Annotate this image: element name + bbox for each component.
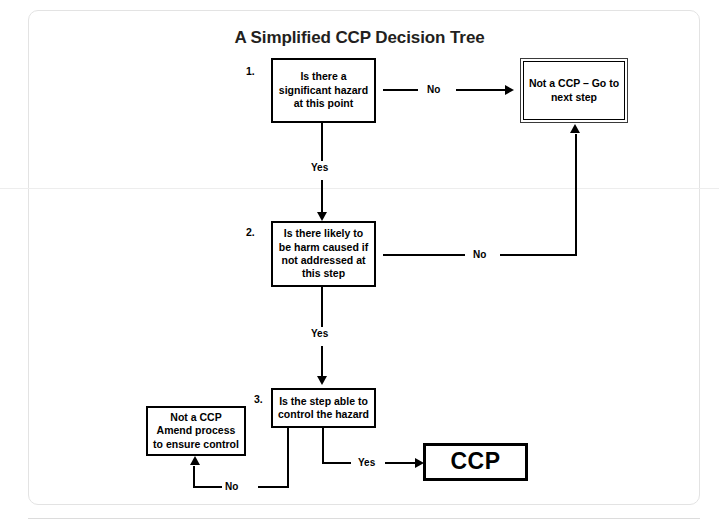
edge-q3-yes-line-left-seg [322, 462, 351, 464]
diagram-canvas: A Simplified CCP Decision Tree 1. Is the… [0, 0, 719, 529]
node-question-1[interactable]: Is there a significant hazard at this po… [271, 58, 376, 123]
step-number-2: 2. [246, 226, 255, 238]
edge-label-q2-yes: Yes [308, 328, 331, 339]
edge-label-q3-yes: Yes [355, 457, 378, 468]
edge-q3-no-line-up [193, 466, 195, 488]
edge-q2-no-line-vertical [575, 134, 577, 254]
edge-q1-yes-line-upper [321, 123, 323, 161]
node-not-a-ccp-amend[interactable]: Not a CCP Amend process to ensure contro… [146, 406, 246, 456]
edge-q2-no-line-left [383, 254, 465, 256]
edge-q3-no-line-right-seg [258, 486, 289, 488]
edge-q1-no-arrowhead-icon [505, 85, 514, 95]
edge-q2-no-line-right [500, 254, 577, 256]
edge-q1-yes-arrowhead-icon [317, 212, 327, 221]
footer-divider [28, 518, 700, 519]
edge-label-q3-no: No [222, 481, 241, 492]
node-not-a-ccp-next-step[interactable]: Not a CCP – Go to next step [520, 58, 628, 123]
edge-q3-no-line-down [287, 428, 289, 488]
edge-q2-yes-line-lower [321, 346, 323, 379]
edge-label-q1-no: No [424, 84, 443, 95]
edge-q2-yes-arrowhead-icon [317, 376, 327, 385]
node-question-3[interactable]: Is the step able to control the hazard [271, 388, 376, 428]
page-title: A Simplified CCP Decision Tree [0, 28, 719, 48]
edge-q3-yes-line-right-seg [385, 462, 417, 464]
scan-artifact-line [0, 188, 719, 189]
step-number-3: 3. [254, 393, 263, 405]
edge-q2-yes-line-upper [321, 287, 323, 327]
edge-q1-no-line-left [383, 89, 418, 91]
edge-q1-no-line-right [456, 89, 506, 91]
node-not-a-ccp-next-step-inner: Not a CCP – Go to next step [523, 61, 625, 120]
step-number-1: 1. [246, 65, 255, 77]
edge-q1-yes-line-lower [321, 180, 323, 215]
node-ccp[interactable]: CCP [423, 443, 528, 481]
edge-label-q1-yes: Yes [308, 162, 331, 173]
node-question-2[interactable]: Is there likely to be harm caused if not… [271, 221, 376, 287]
edge-label-q2-no: No [470, 249, 489, 260]
edge-q3-no-line-left-seg [193, 486, 222, 488]
edge-q2-no-arrowhead-icon [570, 124, 580, 133]
edge-q3-yes-line-down [322, 428, 324, 464]
edge-q3-no-arrowhead-icon [190, 456, 200, 465]
